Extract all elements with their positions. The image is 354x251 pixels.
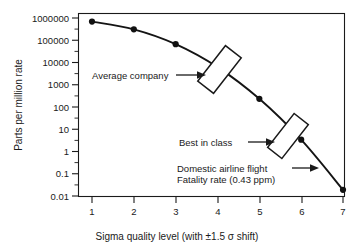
data-point bbox=[340, 187, 346, 193]
x-axis-title: Sigma quality level (with ±1.5 σ shift) bbox=[96, 231, 259, 242]
x-axis-tick-labels: 1 2 3 4 5 6 7 bbox=[89, 206, 345, 217]
y-tick-label: 0.01 bbox=[51, 191, 70, 202]
y-tick-label: 100000 bbox=[37, 35, 69, 46]
x-tick-label: 7 bbox=[340, 206, 345, 217]
y-tick-label: 10000 bbox=[43, 57, 69, 68]
airline-flight-label-line2: Fatality rate (0.43 ppm) bbox=[177, 174, 275, 185]
y-tick-label: 100 bbox=[53, 102, 69, 113]
y-axis-major-ticks bbox=[72, 18, 79, 196]
data-point bbox=[256, 96, 262, 102]
sigma-quality-chart: 1000000 100000 10000 1000 100 10 1 0.1 0… bbox=[0, 0, 354, 251]
x-tick-label: 2 bbox=[131, 206, 136, 217]
y-tick-label: 1000000 bbox=[32, 13, 69, 24]
x-tick-label: 3 bbox=[173, 206, 178, 217]
data-point bbox=[131, 26, 137, 32]
x-tick-label: 4 bbox=[215, 206, 220, 217]
y-tick-label: 1 bbox=[64, 146, 69, 157]
y-axis-title: Parts per million rate bbox=[13, 59, 24, 151]
best-in-class-band bbox=[268, 114, 309, 159]
chart-canvas: 1000000 100000 10000 1000 100 10 1 0.1 0… bbox=[0, 0, 354, 251]
x-axis-ticks bbox=[92, 197, 343, 204]
y-axis-tick-labels: 1000000 100000 10000 1000 100 10 1 0.1 0… bbox=[32, 13, 69, 202]
data-point bbox=[173, 41, 179, 47]
y-tick-label: 1000 bbox=[48, 79, 69, 90]
y-tick-label: 0.1 bbox=[56, 168, 69, 179]
data-point bbox=[89, 18, 95, 24]
x-tick-label: 6 bbox=[299, 206, 304, 217]
best-in-class-label: Best in class bbox=[179, 137, 233, 148]
x-tick-label: 5 bbox=[257, 206, 262, 217]
x-tick-label: 1 bbox=[89, 206, 94, 217]
y-tick-label: 10 bbox=[58, 124, 69, 135]
airline-flight-arrow bbox=[292, 164, 319, 172]
airline-flight-label-line1: Domestic airline flight bbox=[177, 163, 268, 174]
average-company-label: Average company bbox=[92, 70, 169, 81]
average-company-band bbox=[198, 46, 241, 94]
